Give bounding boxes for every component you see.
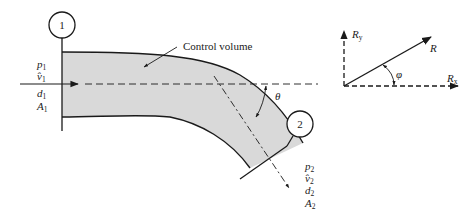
ry-label: Ry <box>352 29 362 42</box>
section-1-area: A1 <box>37 101 47 114</box>
section-1-diameter: d1 <box>37 88 46 101</box>
section-1-velocity: v̂1 <box>37 71 46 84</box>
control-volume-region <box>62 52 303 168</box>
rx-label: Rx <box>447 73 457 86</box>
phi-label: φ <box>396 69 402 80</box>
section-2-number: 2 <box>287 111 313 137</box>
section-2-area: A2 <box>305 198 315 211</box>
control-volume-label: Control volume <box>183 41 252 52</box>
resultant-force-arrow <box>344 37 431 86</box>
resultant-label: R <box>430 43 437 54</box>
section-1-number: 1 <box>49 12 75 38</box>
theta-label: θ <box>275 91 280 102</box>
phi-angle-arc <box>383 65 394 85</box>
section-2-diameter: d2 <box>305 185 314 198</box>
